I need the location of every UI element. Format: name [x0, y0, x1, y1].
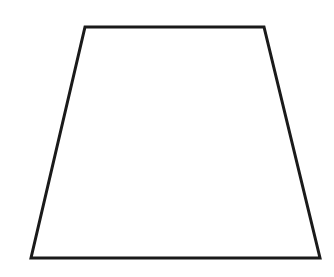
shape-svg: [0, 0, 334, 277]
trapezoid-shape: [31, 27, 320, 258]
figure-canvas: [0, 0, 334, 277]
